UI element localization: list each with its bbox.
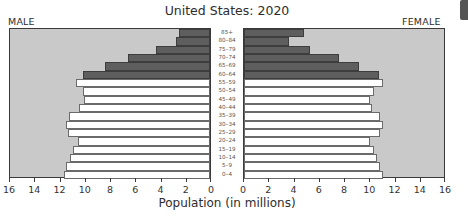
female-bar [244, 162, 380, 170]
female-bar [244, 71, 379, 79]
axis-tick-label: 8 [100, 184, 120, 195]
axis-tick-label: 2 [258, 184, 278, 195]
axis-tick [110, 178, 111, 182]
axis-tick-label: 6 [309, 184, 329, 195]
male-bar [84, 96, 210, 104]
axis-tick-label: 0 [201, 184, 221, 195]
male-bar [79, 104, 210, 112]
axis-tick [186, 178, 187, 182]
female-x-axis: 0246810121416 [243, 178, 445, 194]
axis-tick-label: 16 [435, 184, 455, 195]
axis-tick-label: 4 [284, 184, 304, 195]
male-bar [66, 121, 210, 129]
age-group-label: 65–69 [211, 61, 243, 69]
age-group-label: 30–34 [211, 120, 243, 128]
female-bar [244, 79, 383, 87]
axis-tick [85, 178, 86, 182]
male-bar [83, 87, 211, 95]
male-bar [69, 112, 210, 120]
axis-tick-label: 2 [176, 184, 196, 195]
age-group-label: 60–64 [211, 70, 243, 78]
axis-tick [319, 178, 320, 182]
male-bar [105, 62, 210, 70]
axis-tick-label: 6 [125, 184, 145, 195]
female-panel [243, 28, 445, 178]
female-bar [244, 104, 372, 112]
age-group-label: 75–79 [211, 45, 243, 53]
axis-tick-label: 10 [75, 184, 95, 195]
male-bar [78, 137, 211, 145]
male-bar [76, 79, 210, 87]
axis-tick [135, 178, 136, 182]
male-bar [156, 46, 210, 54]
male-bar [70, 154, 210, 162]
female-bar [244, 129, 380, 137]
chart-title: United States: 2020 [0, 3, 454, 18]
axis-tick [60, 178, 61, 182]
age-group-label: 45–49 [211, 95, 243, 103]
age-group-label: 5–9 [211, 161, 243, 169]
male-bar [66, 162, 210, 170]
female-bar [244, 46, 310, 54]
axis-tick [210, 178, 211, 182]
axis-tick [294, 178, 295, 182]
female-bar [244, 121, 383, 129]
female-bar [244, 29, 304, 37]
age-group-label: 70–74 [211, 53, 243, 61]
age-group-label: 25–29 [211, 128, 243, 136]
axis-tick [161, 178, 162, 182]
male-bar [176, 37, 210, 45]
female-bar [244, 137, 370, 145]
female-bar [244, 87, 374, 95]
male-panel [9, 28, 211, 178]
female-bar [244, 37, 289, 45]
axis-tick-label: 8 [334, 184, 354, 195]
axis-tick [369, 178, 370, 182]
axis-tick [420, 178, 421, 182]
age-group-label: 20–24 [211, 136, 243, 144]
age-group-label: 55–59 [211, 78, 243, 86]
axis-tick [34, 178, 35, 182]
axis-tick-label: 12 [50, 184, 70, 195]
axis-tick [344, 178, 345, 182]
axis-tick-label: 14 [410, 184, 430, 195]
axis-tick-label: 16 [0, 184, 19, 195]
female-bar [244, 154, 377, 162]
male-bar [179, 29, 210, 37]
axis-tick-label: 14 [24, 184, 44, 195]
page-edge-tab [460, 0, 468, 20]
age-group-label: 50–54 [211, 86, 243, 94]
axis-tick [444, 178, 445, 182]
male-bar [73, 146, 211, 154]
age-group-label: 40–44 [211, 103, 243, 111]
age-group-labels: 85+80–8475–7970–7465–6960–6455–5950–5445… [211, 28, 243, 178]
female-bar [244, 62, 359, 70]
x-axis-label: Population (in millions) [0, 196, 454, 210]
male-bar [68, 129, 211, 137]
axis-tick-label: 4 [151, 184, 171, 195]
male-bar [128, 54, 211, 62]
female-label: FEMALE [402, 16, 441, 27]
axis-tick-label: 12 [385, 184, 405, 195]
age-group-label: 10–14 [211, 153, 243, 161]
age-group-label: 35–39 [211, 111, 243, 119]
female-bar [244, 112, 380, 120]
female-bar [244, 96, 370, 104]
male-x-axis: 1614121086420 [9, 178, 211, 194]
male-label: MALE [8, 16, 35, 27]
male-bar [83, 71, 211, 79]
axis-tick-label: 10 [359, 184, 379, 195]
age-group-label: 0–4 [211, 170, 243, 178]
axis-tick [395, 178, 396, 182]
axis-tick [268, 178, 269, 182]
age-group-label: 85+ [211, 28, 243, 36]
age-group-label: 80–84 [211, 36, 243, 44]
female-bar [244, 54, 339, 62]
axis-tick [9, 178, 10, 182]
female-bar [244, 146, 374, 154]
axis-tick [243, 178, 244, 182]
axis-tick-label: 0 [233, 184, 253, 195]
age-group-label: 15–19 [211, 145, 243, 153]
